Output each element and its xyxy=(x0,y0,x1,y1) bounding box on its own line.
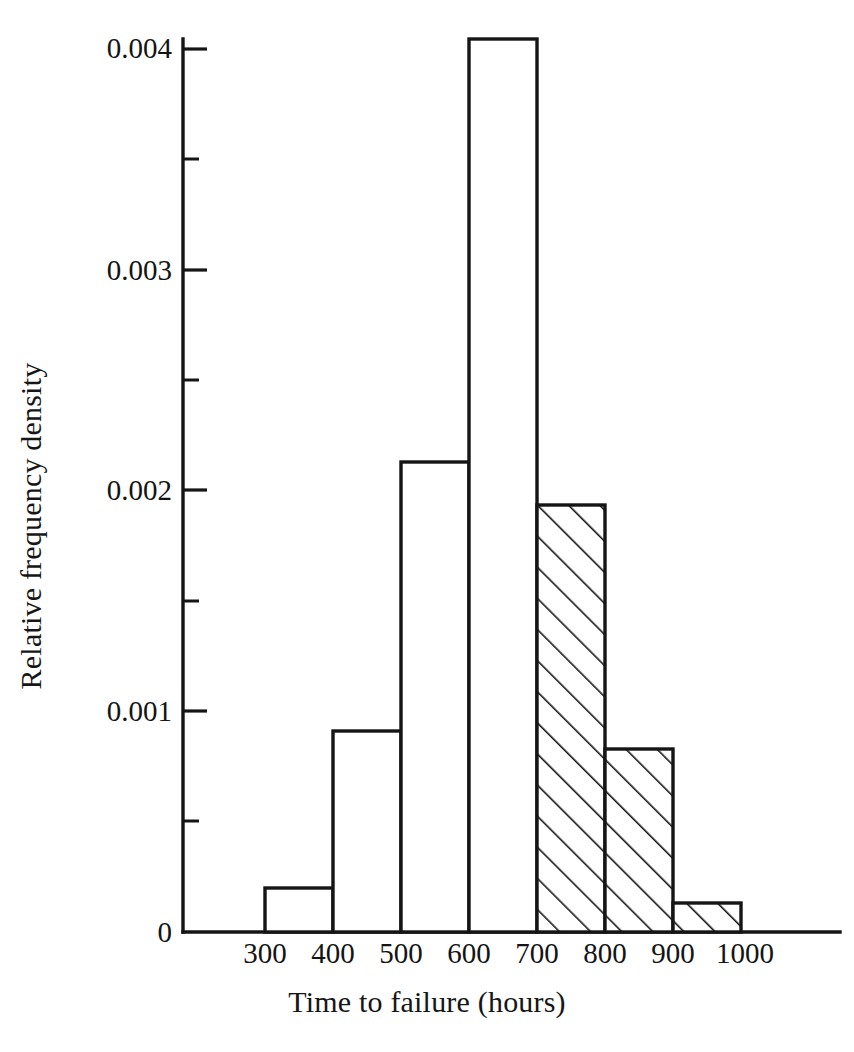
x-tick-label-500: 500 xyxy=(379,937,423,969)
histogram-bar-500-600 xyxy=(401,462,469,932)
x-axis-title: Time to failure (hours) xyxy=(0,985,854,1019)
x-tick-label-900: 900 xyxy=(651,937,695,969)
y-tick-label-0.003: 0.003 xyxy=(107,254,172,286)
histogram-plot-area: 0.004 0.003 0.002 0.001 0 300 400 500 60… xyxy=(0,0,854,1052)
histogram-bar-700-800 xyxy=(537,505,605,932)
y-tick-label-0.004: 0.004 xyxy=(107,32,173,64)
y-tick-label-0: 0 xyxy=(158,916,173,948)
y-tick-label-0.002: 0.002 xyxy=(107,474,172,506)
histogram-bar-600-700 xyxy=(469,39,537,932)
histogram-bar-900-1000 xyxy=(673,903,741,932)
x-tick-label-400: 400 xyxy=(311,937,355,969)
x-tick-label-600: 600 xyxy=(447,937,491,969)
x-tick-label-1000: 1000 xyxy=(716,937,774,969)
histogram-bar-300-400 xyxy=(265,888,333,932)
histogram-bar-800-900 xyxy=(605,749,673,932)
histogram-figure: Relative frequency density 0.004 xyxy=(0,0,854,1052)
y-tick-label-0.001: 0.001 xyxy=(107,695,172,727)
x-tick-label-300: 300 xyxy=(243,937,287,969)
x-tick-label-800: 800 xyxy=(583,937,627,969)
x-tick-label-700: 700 xyxy=(515,937,559,969)
histogram-bar-400-500 xyxy=(333,731,401,932)
